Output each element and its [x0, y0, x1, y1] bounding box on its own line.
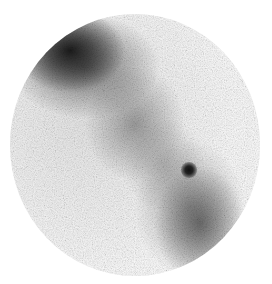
scan-field-of-view: [10, 14, 260, 276]
focal-hotspot: [181, 162, 197, 178]
scan-noise: [10, 14, 260, 276]
